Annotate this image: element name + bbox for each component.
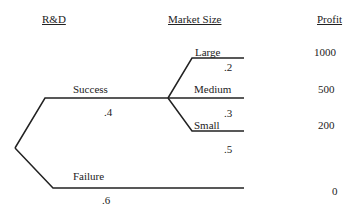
large-label: Large bbox=[195, 46, 220, 58]
failure-branch-line bbox=[15, 148, 244, 188]
small-profit: 200 bbox=[318, 119, 335, 131]
large-profit: 1000 bbox=[314, 46, 336, 58]
rd-header: R&D bbox=[42, 13, 66, 25]
market-size-header: Market Size bbox=[168, 13, 221, 25]
large-probability: .2 bbox=[224, 61, 232, 73]
failure-profit: 0 bbox=[332, 185, 338, 197]
decision-tree-lines bbox=[0, 0, 350, 216]
success-label: Success bbox=[73, 83, 108, 95]
medium-label: Medium bbox=[194, 83, 231, 95]
profit-header: Profit bbox=[317, 13, 342, 25]
medium-profit: 500 bbox=[318, 83, 335, 95]
small-label: Small bbox=[194, 119, 220, 131]
small-probability: .5 bbox=[224, 143, 232, 155]
failure-probability: .6 bbox=[102, 194, 110, 206]
medium-probability: .3 bbox=[224, 107, 232, 119]
success-branch-line bbox=[15, 98, 168, 148]
failure-label: Failure bbox=[73, 170, 104, 182]
success-probability: .4 bbox=[104, 106, 112, 118]
